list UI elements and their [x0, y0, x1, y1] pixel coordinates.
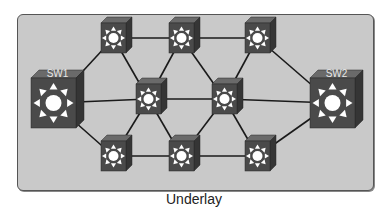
- switch-t3[interactable]: [245, 17, 276, 53]
- switch-b3[interactable]: [245, 135, 276, 171]
- multilayer-switch-icon: [246, 27, 269, 50]
- multilayer-switch-icon: [246, 145, 269, 168]
- switch-sw2[interactable]: SW2: [310, 68, 363, 129]
- switch-m1[interactable]: [136, 78, 167, 114]
- switch-b1[interactable]: [101, 135, 132, 171]
- diagram-caption: Underlay: [0, 191, 388, 207]
- multilayer-switch-icon: [137, 88, 160, 111]
- switches: SW1SW2: [31, 17, 363, 171]
- switch-label: SW1: [47, 68, 69, 79]
- switch-t2[interactable]: [169, 17, 200, 53]
- multilayer-switch-icon: [170, 27, 193, 50]
- multilayer-switch-icon: [170, 145, 193, 168]
- multilayer-switch-icon: [102, 145, 125, 168]
- switch-label: SW2: [326, 68, 348, 79]
- switch-t1[interactable]: [101, 17, 132, 53]
- network-diagram: SW1SW2: [0, 0, 388, 212]
- switch-m2[interactable]: [212, 78, 243, 114]
- multilayer-switch-icon: [313, 83, 353, 123]
- multilayer-switch-icon: [102, 27, 125, 50]
- switch-b2[interactable]: [169, 135, 200, 171]
- multilayer-switch-icon: [34, 83, 74, 123]
- multilayer-switch-icon: [213, 88, 236, 111]
- switch-sw1[interactable]: SW1: [31, 68, 84, 129]
